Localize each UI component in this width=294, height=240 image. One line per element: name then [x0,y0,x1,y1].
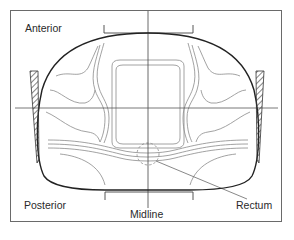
anterior-label: Anterior [25,23,62,34]
anterior-bracket [104,25,193,33]
rectum-label: Rectum [236,200,272,211]
left-wedge [30,71,39,163]
posterior-label: Posterior [24,200,66,211]
rectum-leader-line [156,161,247,199]
midline-label: Midline [130,209,163,220]
posterior-bracket [105,192,193,200]
right-wedge [256,71,264,163]
